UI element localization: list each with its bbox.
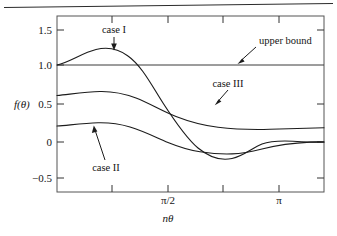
y-axis-ticks-right — [317, 30, 324, 178]
series-case-iii — [57, 91, 324, 129]
annotation-label-upper-bound: upper bound — [259, 35, 313, 46]
y-tick-label-neg-0-5: −0.5 — [32, 172, 52, 184]
figure-container: 1.5 1.0 0.5 0 −0.5 π/2 π f(θ) nθ case I … — [0, 0, 337, 236]
annotation-leader-case-iii — [215, 90, 228, 105]
page-rule-artifact — [4, 4, 333, 8]
x-axis-ticks — [112, 185, 279, 192]
chart-canvas: 1.5 1.0 0.5 0 −0.5 π/2 π f(θ) nθ case I … — [0, 0, 337, 236]
y-tick-label-1-5: 1.5 — [38, 24, 52, 36]
x-tick-label-pi: π — [276, 194, 282, 206]
y-tick-label-0-5: 0.5 — [38, 98, 52, 110]
x-axis-label: nθ — [163, 212, 175, 224]
y-axis-label: f(θ) — [14, 98, 30, 111]
y-tick-label-0: 0 — [47, 136, 53, 148]
annotation-leader-case-ii — [92, 126, 105, 161]
annotation-label-case-i: case I — [102, 24, 127, 35]
y-axis-ticks — [57, 30, 64, 178]
annotation-label-case-ii: case II — [92, 162, 120, 173]
annotation-label-case-iii: case III — [212, 78, 244, 89]
x-axis-ticks-top — [112, 16, 279, 23]
y-tick-label-1-0: 1.0 — [38, 59, 52, 71]
series-case-ii — [57, 123, 324, 154]
x-tick-label-pi-half: π/2 — [161, 194, 175, 206]
annotation-leader-upper-bound — [238, 47, 257, 64]
